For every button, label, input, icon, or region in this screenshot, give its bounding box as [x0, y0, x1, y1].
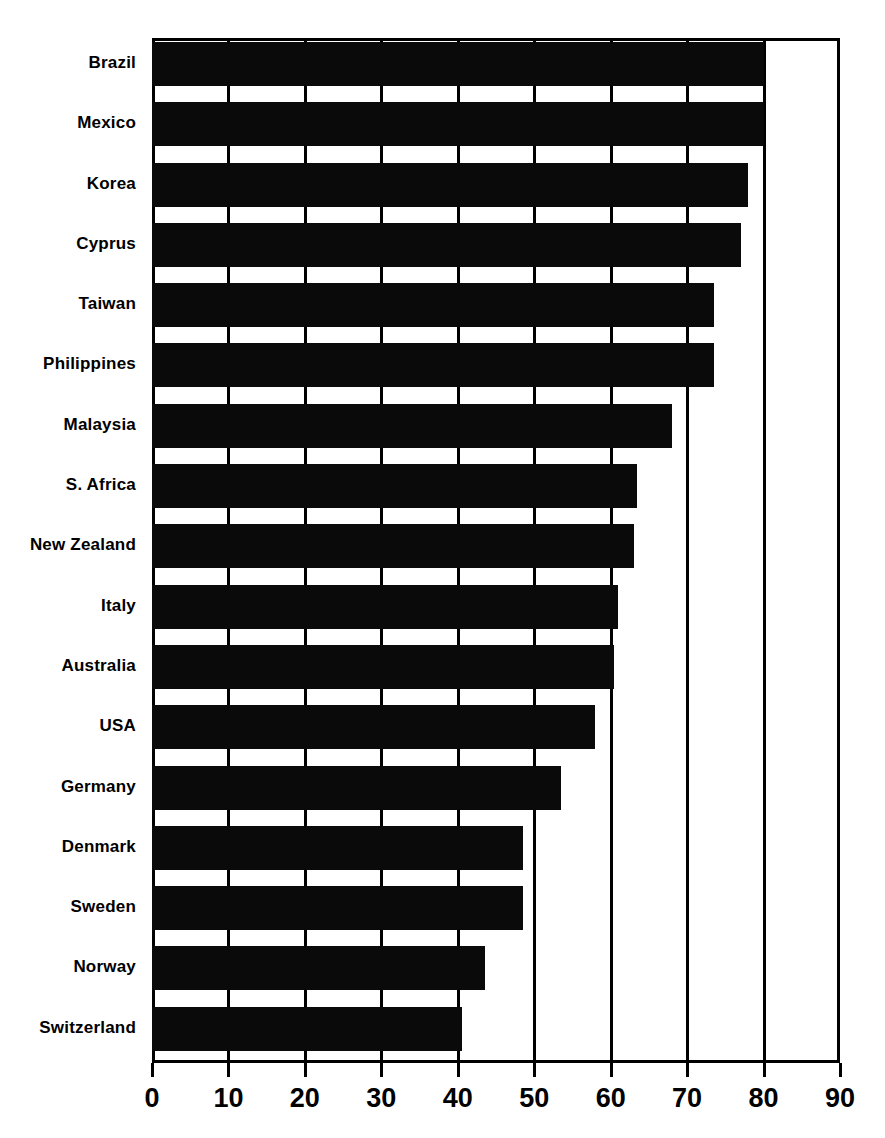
bar: [152, 464, 637, 508]
axis-tick: [304, 1063, 307, 1077]
axis-tick: [457, 1063, 460, 1077]
bar: [152, 946, 485, 990]
bar-row: [152, 705, 840, 749]
bars-layer: [152, 38, 840, 1063]
axis-tick: [151, 1063, 154, 1077]
category-label: Norway: [73, 957, 136, 977]
bar: [152, 102, 764, 146]
axis-tick-label: 40: [443, 1083, 473, 1114]
category-label: Australia: [61, 656, 136, 676]
axis-tick-label: 90: [825, 1083, 855, 1114]
bar-row: [152, 766, 840, 810]
axis-tick-label: 0: [144, 1083, 159, 1114]
bar: [152, 585, 618, 629]
bar-row: [152, 404, 840, 448]
bar: [152, 645, 614, 689]
axis-tick-label: 70: [672, 1083, 702, 1114]
category-axis-labels: BrazilMexicoKoreaCyprusTaiwanPhilippines…: [0, 38, 144, 1063]
bar-chart: BrazilMexicoKoreaCyprusTaiwanPhilippines…: [0, 0, 885, 1138]
axis-tick-label: 20: [290, 1083, 320, 1114]
bar-row: [152, 946, 840, 990]
axis-tick: [763, 1063, 766, 1077]
axis-tick: [227, 1063, 230, 1077]
bar: [152, 283, 714, 327]
bar: [152, 42, 764, 86]
bar-row: [152, 1007, 840, 1051]
bar-row: [152, 42, 840, 86]
bar-row: [152, 826, 840, 870]
category-label: USA: [100, 716, 137, 736]
category-label: Malaysia: [64, 415, 136, 435]
category-label: S. Africa: [66, 475, 136, 495]
category-label: Korea: [87, 174, 136, 194]
bar: [152, 404, 672, 448]
bar: [152, 163, 748, 207]
category-label: Cyprus: [76, 234, 136, 254]
category-label: Sweden: [71, 897, 136, 917]
category-label: Switzerland: [39, 1018, 136, 1038]
bar-row: [152, 585, 840, 629]
bar-row: [152, 886, 840, 930]
bar: [152, 223, 741, 267]
bar-row: [152, 223, 840, 267]
value-axis: 0102030405060708090: [0, 1063, 885, 1138]
bar-row: [152, 524, 840, 568]
bar: [152, 524, 634, 568]
axis-tick-label: 80: [749, 1083, 779, 1114]
category-label: New Zealand: [30, 535, 136, 555]
axis-tick: [839, 1063, 842, 1077]
category-label: Germany: [61, 777, 136, 797]
axis-tick-label: 60: [596, 1083, 626, 1114]
bar-row: [152, 283, 840, 327]
bar-row: [152, 102, 840, 146]
bar: [152, 826, 523, 870]
bar-row: [152, 343, 840, 387]
axis-tick-label: 10: [213, 1083, 243, 1114]
bar: [152, 705, 595, 749]
category-label: Mexico: [77, 113, 136, 133]
bar: [152, 766, 561, 810]
axis-tick: [686, 1063, 689, 1077]
bar: [152, 1007, 462, 1051]
axis-tick-label: 30: [366, 1083, 396, 1114]
category-label: Brazil: [89, 53, 137, 73]
axis-tick-label: 50: [519, 1083, 549, 1114]
bar-row: [152, 645, 840, 689]
category-label: Philippines: [43, 354, 136, 374]
bar-row: [152, 163, 840, 207]
category-label: Taiwan: [78, 294, 136, 314]
axis-tick: [380, 1063, 383, 1077]
bar-row: [152, 464, 840, 508]
axis-tick: [533, 1063, 536, 1077]
bar: [152, 343, 714, 387]
category-label: Denmark: [62, 837, 136, 857]
bar: [152, 886, 523, 930]
axis-tick: [610, 1063, 613, 1077]
category-label: Italy: [101, 596, 136, 616]
